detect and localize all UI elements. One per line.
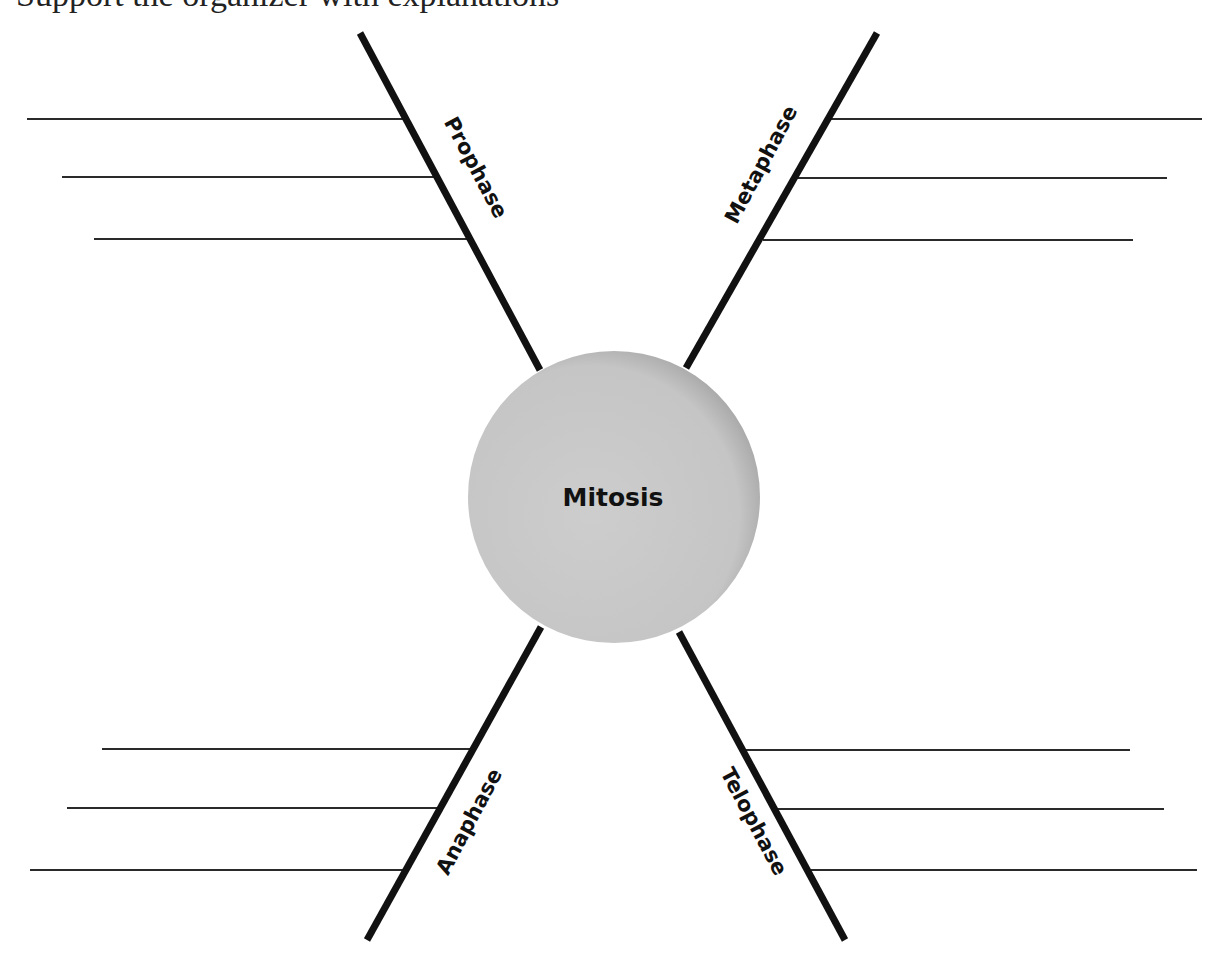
arm-telophase <box>679 632 845 940</box>
center-node: Mitosis <box>468 351 760 643</box>
arm-label-metaphase: Metaphase <box>720 101 802 227</box>
diagram-canvas: Mitosis ProphaseMetaphaseAnaphaseTelopha… <box>0 0 1225 964</box>
mitosis-spider-diagram: Support the organizer with explanations … <box>0 0 1225 964</box>
arm-metaphase <box>686 33 877 368</box>
center-label: Mitosis <box>563 483 664 512</box>
arm-label-anaphase: Anaphase <box>431 765 507 879</box>
arm-prophase <box>360 33 540 370</box>
arm-anaphase <box>367 627 541 940</box>
